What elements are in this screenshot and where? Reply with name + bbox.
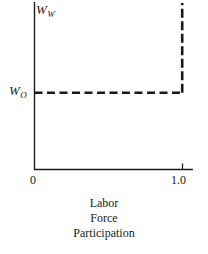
y-axis-label: WW — [36, 3, 55, 19]
caption-line-1: Labor — [0, 196, 208, 211]
y-axis-label-subscript: W — [47, 9, 55, 19]
figure-caption: Labor Force Participation — [0, 196, 208, 241]
wage-level-label-subscript: O — [20, 90, 27, 100]
labor-supply-figure: WW WO 0 1.0 Labor Force Participation — [0, 0, 208, 254]
wage-level-label: WO — [9, 84, 27, 100]
wage-level-label-base: W — [9, 83, 20, 98]
x-tick-label-one: 1.0 — [171, 174, 186, 186]
caption-line-3: Participation — [0, 226, 208, 241]
y-axis-label-base: W — [36, 2, 47, 17]
origin-tick-label: 0 — [30, 174, 36, 186]
caption-line-2: Force — [0, 211, 208, 226]
